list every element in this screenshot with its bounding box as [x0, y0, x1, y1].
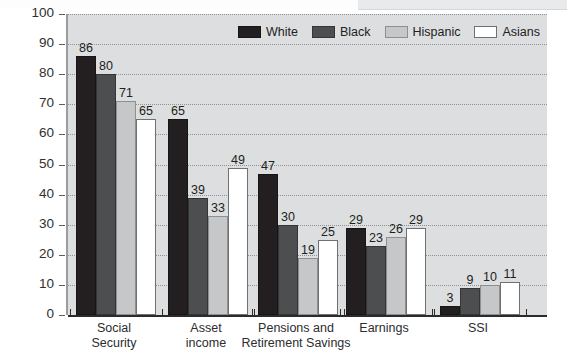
bar-value-label: 25 [311, 225, 345, 239]
bar[interactable] [116, 101, 136, 315]
bar-value-label: 29 [339, 213, 373, 227]
bar-value-label: 80 [89, 59, 123, 73]
bar[interactable] [228, 168, 248, 315]
legend-item[interactable]: White [238, 25, 298, 39]
bar-value-label: 65 [161, 104, 195, 118]
y-axis-tick-mark [59, 315, 65, 316]
x-axis-tick-mark [340, 309, 341, 316]
bar-value-label: 30 [271, 210, 305, 224]
legend-swatch-icon [312, 26, 335, 38]
bar-value-label: 11 [493, 267, 527, 281]
x-axis-tick-mark [252, 309, 253, 316]
legend-item[interactable]: Black [312, 25, 371, 39]
x-axis-tick-mark [432, 309, 433, 316]
x-axis-tick-mark [162, 309, 163, 316]
bar[interactable] [480, 285, 500, 315]
bar-value-label: 65 [129, 104, 163, 118]
legend-label: Black [340, 25, 371, 39]
bar[interactable] [278, 225, 298, 315]
bar-group: 391011 [440, 14, 520, 315]
x-axis-tick-mark [526, 309, 527, 316]
bar[interactable] [366, 246, 386, 315]
bar[interactable] [386, 237, 406, 315]
bar-chart: 1009080706050403020100 Percent 868071656… [0, 0, 567, 357]
bar-value-label: 86 [69, 41, 103, 55]
bar-group: 65393349 [168, 14, 248, 315]
bar-value-label: 49 [221, 153, 255, 167]
legend-label: Asians [502, 25, 540, 39]
y-axis-tick-label: 0 [14, 306, 54, 321]
bar[interactable] [406, 228, 426, 315]
bar[interactable] [440, 306, 460, 315]
bar[interactable] [208, 216, 228, 315]
x-axis-tick-mark [344, 309, 345, 316]
legend-swatch-icon [474, 26, 497, 38]
legend-swatch-icon [238, 26, 261, 38]
x-axis-tick-mark [254, 309, 255, 316]
bar[interactable] [500, 282, 520, 315]
x-axis-tick-mark [70, 309, 71, 316]
bar[interactable] [188, 198, 208, 315]
bar[interactable] [168, 119, 188, 315]
legend-label: White [266, 25, 298, 39]
bar[interactable] [136, 119, 156, 315]
y-axis-title-wrapper: Percent [0, 0, 66, 301]
bar[interactable] [460, 288, 480, 315]
bar[interactable] [76, 56, 96, 315]
x-axis-baseline [68, 315, 547, 317]
bar-value-label: 47 [251, 159, 285, 173]
bar-group: 29232629 [346, 14, 426, 315]
legend-item[interactable]: Asians [474, 25, 540, 39]
legend-item[interactable]: Hispanic [385, 25, 461, 39]
bar-value-label: 29 [399, 213, 433, 227]
bar-group: 86807165 [76, 14, 156, 315]
bar[interactable] [318, 240, 338, 315]
x-axis-category-label: SSI [408, 321, 548, 336]
bar[interactable] [258, 174, 278, 315]
bar-value-label: 39 [181, 183, 215, 197]
legend: WhiteBlackHispanicAsians [238, 25, 540, 39]
legend-label: Hispanic [413, 25, 461, 39]
bar-group: 47301925 [258, 14, 338, 315]
bar[interactable] [298, 258, 318, 315]
bar[interactable] [96, 74, 116, 315]
plot-area: 86807165653933494730192529232629391011 [66, 14, 547, 315]
bar-value-label: 71 [109, 86, 143, 100]
plot-inner: 86807165653933494730192529232629391011 [68, 14, 547, 315]
x-axis-tick-mark [434, 309, 435, 316]
legend-swatch-icon [385, 26, 408, 38]
